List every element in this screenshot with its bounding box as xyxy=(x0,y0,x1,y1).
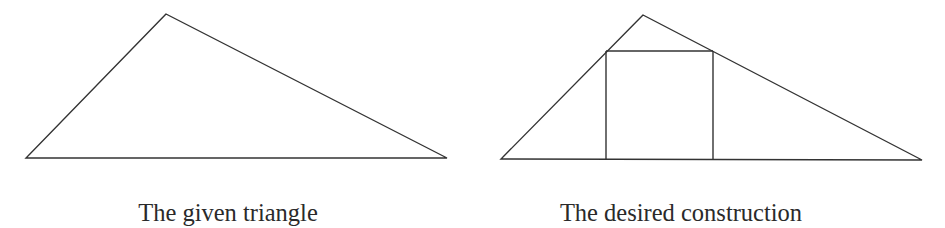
figure-canvas: The given triangle The desired construct… xyxy=(0,0,945,228)
caption-given: The given triangle xyxy=(138,199,318,226)
panel-construction: The desired construction xyxy=(501,15,922,226)
given-triangle xyxy=(26,14,447,158)
caption-construction: The desired construction xyxy=(560,199,802,226)
panel-given: The given triangle xyxy=(26,14,447,226)
construction-triangle xyxy=(501,15,922,160)
